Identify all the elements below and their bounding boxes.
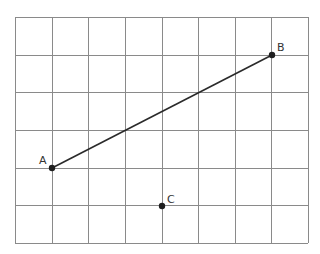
label-b: B xyxy=(277,42,285,53)
grid-diagram xyxy=(0,0,320,254)
point-b xyxy=(269,52,275,58)
point-a xyxy=(49,165,55,171)
point-c xyxy=(159,203,165,209)
label-c: C xyxy=(167,194,175,205)
grid xyxy=(15,17,309,244)
label-a: A xyxy=(39,155,47,166)
